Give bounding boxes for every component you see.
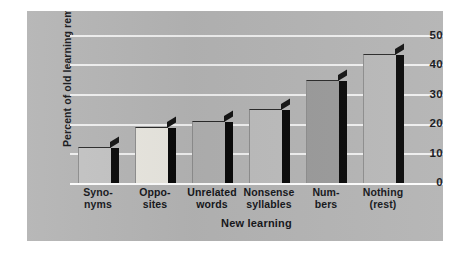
bar-top-synonyms — [110, 136, 119, 148]
bar-side-synonyms — [110, 148, 119, 183]
x-axis-baseline — [70, 183, 443, 185]
x-category-nothing-rest-line2: (rest) — [350, 199, 416, 211]
bar-side-opposites — [167, 128, 176, 183]
y-tick-label-30: 30 — [409, 89, 443, 101]
y-tick-label-50: 50 — [409, 30, 443, 42]
bar-front-nonsense-syllables — [249, 109, 282, 183]
y-tick-label-20: 20 — [409, 118, 443, 130]
bar-front-synonyms — [78, 147, 111, 183]
gridline-50 — [70, 35, 443, 37]
bar-front-opposites — [135, 127, 168, 183]
bar-side-numbers — [338, 81, 347, 183]
bar-top-unrelated-words — [224, 110, 233, 122]
y-tick-label-10: 10 — [409, 148, 443, 160]
x-category-nothing-rest: Nothing (rest) — [350, 187, 416, 210]
figure-canvas: Percent of old learning remembered 50 40… — [0, 0, 466, 264]
bar-front-unrelated-words — [192, 121, 225, 183]
bar-side-nothing-rest — [395, 55, 404, 183]
bar-top-nothing-rest — [395, 43, 404, 55]
y-tick-label-40: 40 — [409, 59, 443, 71]
bar-front-numbers — [306, 80, 339, 183]
x-category-nothing-rest-line1: Nothing — [350, 187, 416, 199]
x-axis-label: New learning — [70, 217, 443, 229]
bar-side-nonsense-syllables — [281, 110, 290, 183]
y-axis-label: Percent of old learning remembered — [61, 11, 73, 147]
bar-top-numbers — [338, 69, 347, 81]
bar-top-opposites — [167, 116, 176, 128]
chart-panel: Percent of old learning remembered 50 40… — [27, 11, 443, 241]
bar-side-unrelated-words — [224, 122, 233, 183]
bar-top-nonsense-syllables — [281, 98, 290, 110]
bar-front-nothing-rest — [363, 54, 396, 183]
